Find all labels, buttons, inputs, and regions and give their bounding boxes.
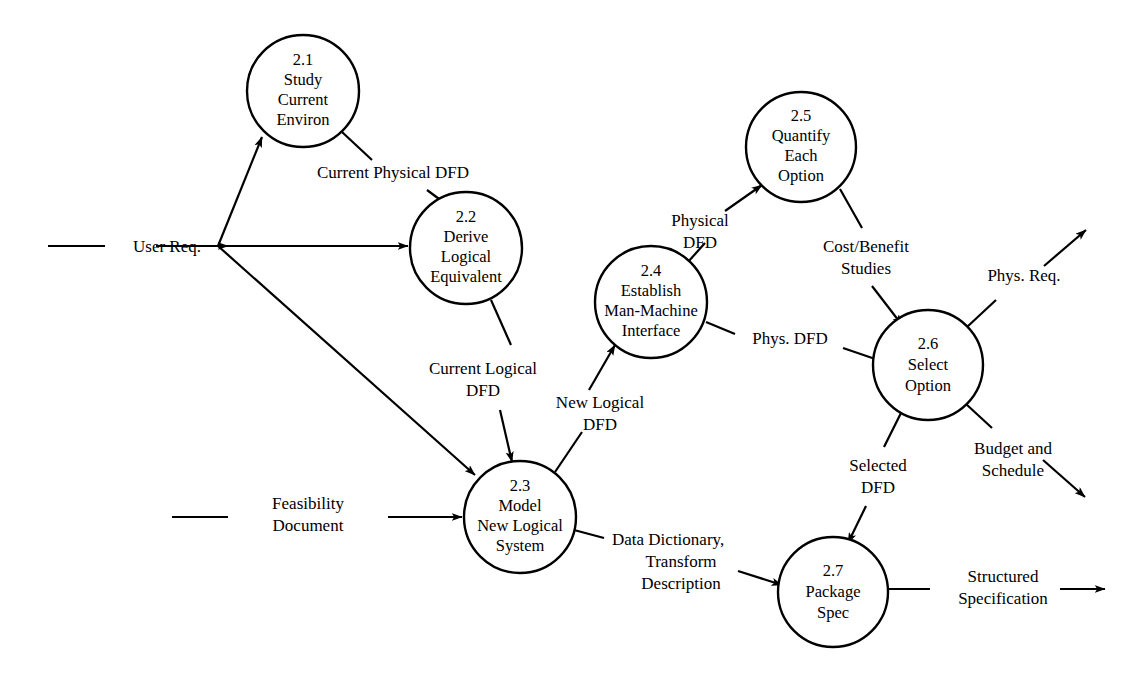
structured-spec-label-line1: Structured [968,567,1039,586]
process-2-7-line2: Package [806,582,861,601]
physical-dfd-label-line1: Physical [671,211,729,230]
current-physical-dfd-tail [342,132,372,160]
phys-req-tail [967,300,996,327]
process-2-2-line2: Derive [444,227,489,246]
process-2-7[interactable]: 2.7 Package Spec [778,537,888,647]
phys-req-head [1044,230,1086,266]
process-2-3-id: 2.3 [510,476,531,495]
budget-head [1043,460,1085,497]
cost-benefit-tail [840,189,862,228]
current-physical-dfd-label: Current Physical DFD [317,163,469,182]
process-2-3-line2: Model [498,496,541,515]
process-2-4[interactable]: 2.4 Establish Man-Machine Interface [595,246,707,358]
new-logical-dfd-label-line2: DFD [583,415,617,434]
phys-req-label: Phys. Req. [987,266,1060,285]
cost-benefit-label-line1: Cost/Benefit [823,237,909,256]
flow-budget-and-schedule: Budget and Schedule [966,404,1085,497]
current-logical-dfd-label-line1: Current Logical [429,359,537,378]
process-2-4-line3: Man-Machine [604,301,697,320]
flow-new-logical-dfd: New Logical DFD [555,345,644,472]
data-dictionary-label-line1: Data Dictionary, [612,530,724,549]
process-2-5-line3: Each [785,146,819,165]
external-input-feasibility-document: Feasibility Document [172,494,462,535]
selected-dfd-head [848,506,866,543]
process-2-2-id: 2.2 [456,207,477,226]
process-2-3[interactable]: 2.3 Model New Logical System [464,461,576,573]
feasibility-label-line2: Document [273,516,344,535]
current-logical-dfd-label-line2: DFD [466,381,500,400]
external-input-user-req: User Req. [48,237,228,256]
process-2-5-line4: Option [778,166,824,185]
selected-dfd-tail [884,409,903,447]
budget-label-line2: Schedule [982,461,1044,480]
process-2-7-line3: Spec [817,603,849,622]
process-2-4-id: 2.4 [641,261,662,280]
user-req-junction [218,137,475,475]
process-2-2[interactable]: 2.2 Derive Logical Equivalent [410,192,522,304]
new-logical-dfd-tail [555,432,582,472]
new-logical-dfd-label-line1: New Logical [556,393,645,412]
new-logical-dfd-head [589,345,615,390]
current-logical-dfd-head [500,410,512,462]
current-logical-dfd-tail [491,300,511,345]
process-2-2-line4: Equivalent [430,267,502,286]
phys-dfd-tail [706,322,735,334]
data-dictionary-tail [574,530,604,538]
phys-dfd-label: Phys. DFD [752,329,828,348]
flow-phys-req: Phys. Req. [967,230,1086,327]
budget-label-line1: Budget and [974,439,1052,458]
process-2-6[interactable]: 2.6 Select Option [873,310,983,420]
feasibility-label-line1: Feasibility [272,494,344,513]
physical-dfd-head [725,185,762,211]
dfd-canvas: User Req. Feasibility Document Current P… [0,0,1133,685]
process-2-1-line3: Current [278,90,329,109]
process-2-7-id: 2.7 [823,561,844,580]
flow-selected-dfd: Selected DFD [848,409,907,543]
process-2-1-line4: Environ [276,110,329,129]
flow-cost-benefit-studies: Cost/Benefit Studies [823,189,909,325]
process-2-6-id: 2.6 [918,334,939,353]
physical-dfd-label-line2: DFD [683,233,717,252]
process-2-6-line2: Select [908,355,949,374]
process-2-1-id: 2.1 [293,50,314,69]
cost-benefit-label-line2: Studies [841,259,891,278]
flow-structured-specification: Structured Specification [889,567,1105,608]
process-2-3-line4: System [496,536,545,555]
process-2-5-id: 2.5 [791,106,812,125]
data-dictionary-label-line2: Transform [645,552,716,571]
process-2-5[interactable]: 2.5 Quantify Each Option [746,92,856,202]
dfd-svg: User Req. Feasibility Document Current P… [0,0,1133,685]
budget-tail [966,404,992,428]
flow-physical-dfd: Physical DFD [671,185,762,262]
structured-spec-label-line2: Specification [958,589,1048,608]
process-2-5-line2: Quantify [772,126,831,145]
process-2-1-line2: Study [284,70,323,89]
data-dictionary-label-line3: Description [641,574,721,593]
process-2-4-line4: Interface [622,321,681,340]
data-dictionary-head [738,571,782,585]
flow-user-req-to-2-1 [218,137,262,246]
process-2-4-line2: Establish [621,281,682,300]
flow-data-dictionary: Data Dictionary, Transform Description [574,530,782,593]
flow-current-logical-dfd: Current Logical DFD [429,300,537,462]
process-2-6-line3: Option [905,376,951,395]
process-2-3-line3: New Logical [477,516,563,535]
selected-dfd-label-line1: Selected [849,456,907,475]
flow-phys-dfd: Phys. DFD [706,322,884,362]
process-2-1[interactable]: 2.1 Study Current Environ [247,35,359,147]
selected-dfd-label-line2: DFD [861,478,895,497]
process-2-2-line3: Logical [441,247,492,266]
